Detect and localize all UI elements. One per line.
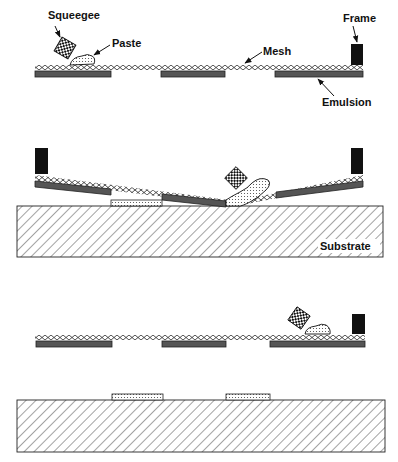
printed-pad bbox=[111, 200, 162, 206]
squeegee bbox=[54, 37, 76, 59]
squeegee bbox=[225, 167, 248, 190]
substrate-label: Substrate bbox=[320, 240, 371, 252]
printed-pad bbox=[226, 394, 270, 400]
mesh bbox=[35, 65, 363, 70]
panel-after-print bbox=[17, 307, 385, 452]
squeegee bbox=[288, 307, 310, 329]
frame bbox=[351, 44, 363, 65]
paste bbox=[305, 324, 330, 334]
screen-printing-diagram: Squeegee Paste Mesh Frame Emulsion Subst… bbox=[0, 0, 398, 462]
mesh bbox=[35, 335, 365, 340]
emulsion bbox=[35, 71, 363, 77]
substrate bbox=[17, 400, 385, 452]
paste-label: Paste bbox=[112, 37, 141, 49]
emulsion-label: Emulsion bbox=[322, 96, 372, 108]
panel-during-print: Substrate bbox=[17, 148, 383, 257]
frame bbox=[352, 314, 365, 334]
emulsion bbox=[36, 341, 365, 347]
panel-before-print: Squeegee Paste Mesh Frame Emulsion bbox=[35, 9, 376, 108]
frame-left bbox=[35, 148, 48, 174]
mesh-label: Mesh bbox=[263, 45, 291, 57]
printed-pad bbox=[112, 394, 163, 400]
frame-label: Frame bbox=[343, 12, 376, 24]
squeegee-label: Squeegee bbox=[48, 9, 100, 21]
frame-right bbox=[351, 148, 363, 174]
paste bbox=[70, 55, 95, 66]
